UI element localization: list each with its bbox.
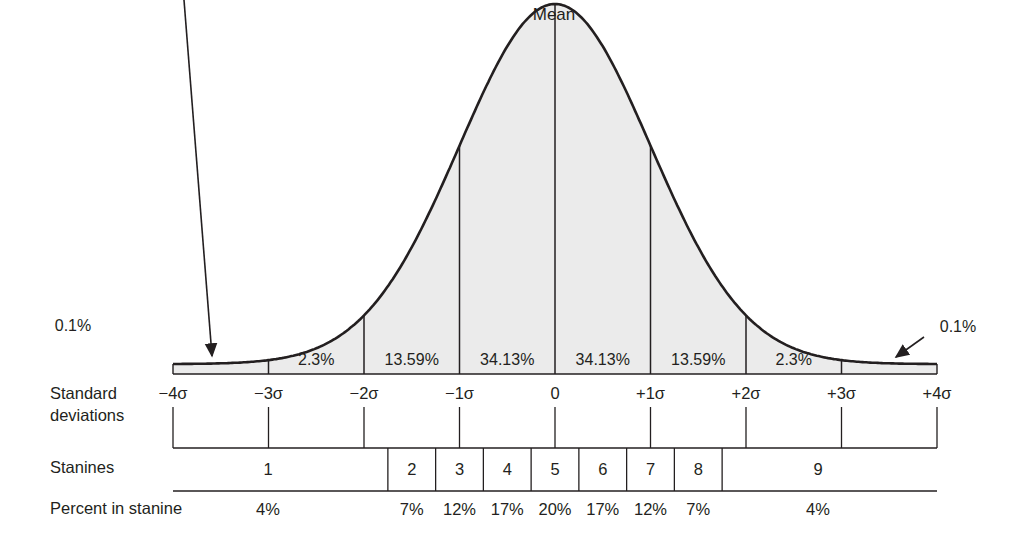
stanine-number: 1 [263, 460, 272, 478]
area-percent-label: 2.3% [298, 351, 334, 368]
stanines-label: Stanines [50, 457, 114, 477]
stanine-number: 3 [455, 460, 464, 478]
left-tail-label: 0.1% [55, 317, 91, 334]
area-percent-label: 34.13% [576, 351, 630, 368]
normal-distribution-chart: Mean 2.3%13.59%34.13%34.13%13.59%2.3% 0.… [0, 0, 1034, 546]
sigma-tick-label: +4σ [923, 384, 952, 402]
stanine-percent: 12% [634, 500, 667, 518]
stanine-boxes: 123456789 [173, 448, 937, 491]
std-dev-label-line1: Standard [50, 383, 117, 403]
stanine-number: 4 [503, 460, 512, 478]
stanine-percent: 12% [443, 500, 476, 518]
stanine-number: 6 [598, 460, 607, 478]
right-tail-label: 0.1% [940, 318, 976, 335]
sigma-tick-label: 0 [550, 384, 559, 402]
stanine-percent: 7% [686, 500, 710, 518]
stanine-percent: 7% [400, 500, 424, 518]
stanine-number: 2 [407, 460, 416, 478]
sigma-tick-label: +3σ [827, 384, 856, 402]
area-percent-label: 13.59% [385, 351, 439, 368]
sigma-tick-labels: −4σ−3σ−2σ−1σ0+1σ+2σ+3σ+4σ [159, 384, 952, 402]
stanine-number: 7 [646, 460, 655, 478]
sigma-divider-lines [269, 4, 842, 374]
sigma-tick-label: −2σ [350, 384, 379, 402]
sigma-tick-label: −3σ [254, 384, 283, 402]
stanine-number: 8 [694, 460, 703, 478]
area-percent-label: 34.13% [480, 351, 534, 368]
stanine-percent-labels: 4%7%12%17%20%17%12%7%4% [256, 500, 830, 518]
area-percent-label: 2.3% [776, 351, 812, 368]
stanine-percent: 4% [806, 500, 830, 518]
std-dev-label-line2: deviations [50, 405, 124, 425]
stanine-number: 5 [550, 460, 559, 478]
mean-label: Mean [533, 5, 576, 24]
stanine-percent: 4% [256, 500, 280, 518]
stanine-percent: 17% [586, 500, 619, 518]
sigma-tick-label: −1σ [445, 384, 474, 402]
right-tail-arrow [896, 337, 924, 357]
sigma-tick-label: +1σ [636, 384, 665, 402]
sigma-tick-label: −4σ [159, 384, 188, 402]
area-percent-label: 13.59% [671, 351, 725, 368]
stanine-percent: 20% [538, 500, 571, 518]
stanine-number: 9 [813, 460, 822, 478]
sigma-tick-label: +2σ [732, 384, 761, 402]
percent-in-stanine-label: Percent in stanine [50, 498, 182, 518]
sigma-bracket [173, 407, 937, 448]
left-tail-arrow [184, 0, 212, 356]
stanine-percent: 17% [491, 500, 524, 518]
